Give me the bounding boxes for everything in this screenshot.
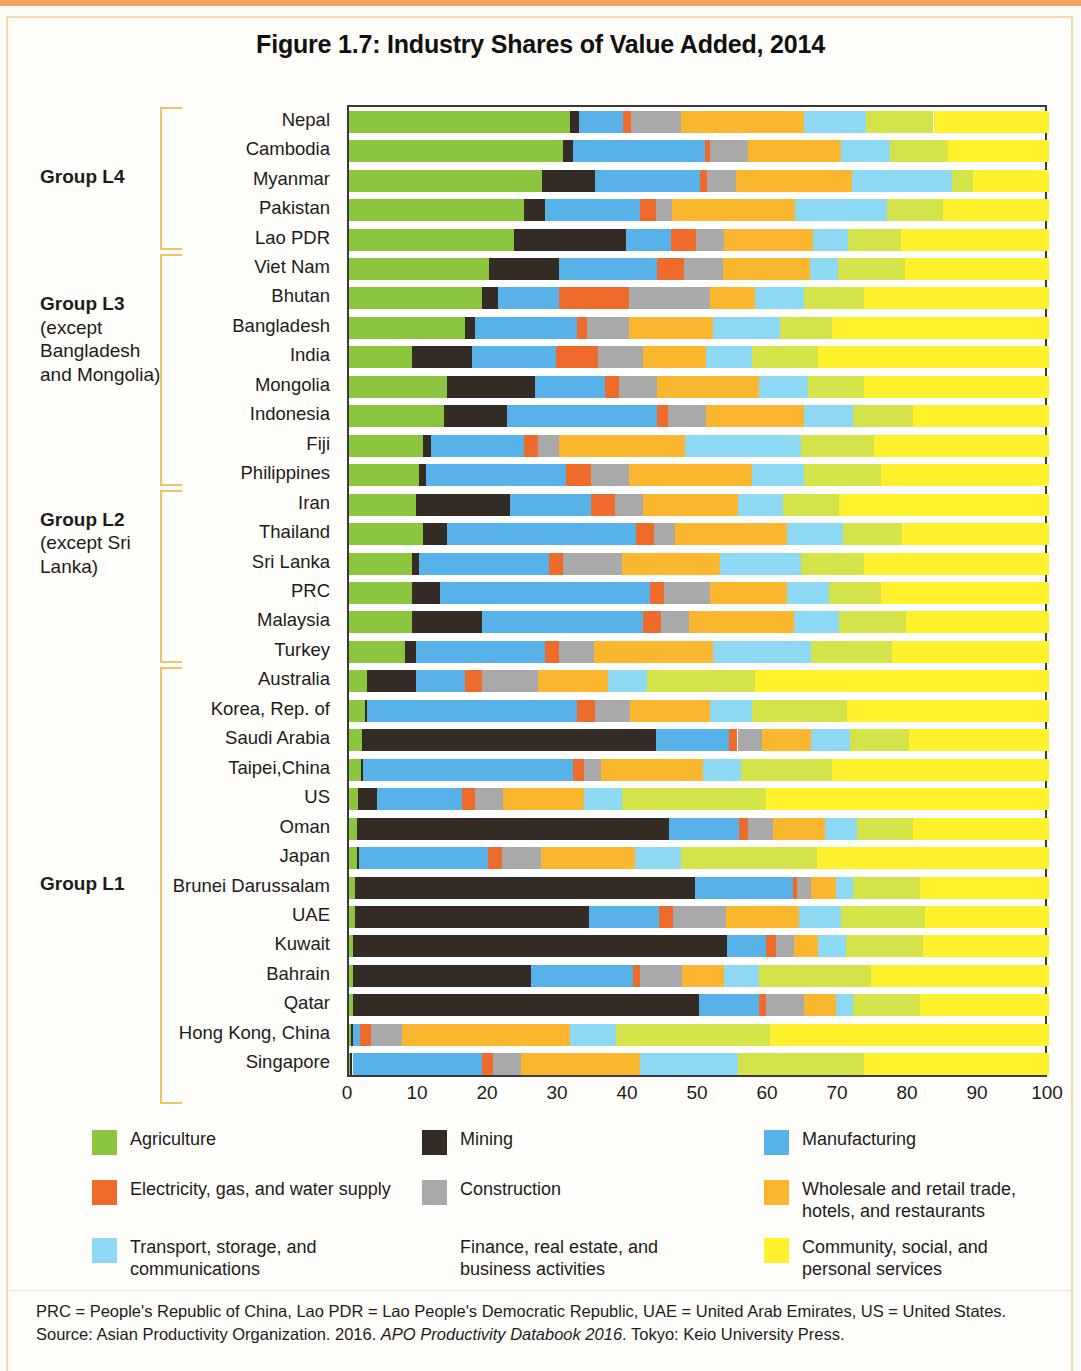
bar-segment-transport (703, 759, 742, 781)
bar-segment-mining (489, 258, 559, 280)
bar-segment-agriculture (349, 287, 482, 309)
bar-segment-wholesale (643, 346, 706, 368)
bar-segment-transport (787, 523, 843, 545)
table-row (349, 1024, 1045, 1046)
table-row (349, 965, 1045, 987)
group-label: Group L1 (40, 872, 165, 896)
x-axis-tick: 100 (1031, 1082, 1063, 1104)
bar-segment-electricity (462, 788, 475, 810)
bar-segment-electricity (465, 670, 483, 692)
bar-segment-wholesale (811, 877, 836, 899)
country-label: Turkey (274, 639, 330, 661)
bar-segment-agriculture (349, 229, 514, 251)
bar-segment-mining (405, 641, 416, 663)
bar-segment-manufacturing (695, 877, 793, 899)
bar-segment-agriculture (349, 582, 412, 604)
bar-segment-electricity (659, 906, 673, 928)
bar-segment-finance (752, 700, 847, 722)
bar-segment-transport (635, 847, 681, 869)
bar-segment-community (923, 935, 1049, 957)
table-row (349, 935, 1045, 957)
bar-segment-wholesale (689, 611, 794, 633)
bar-segment-agriculture (349, 376, 447, 398)
bar-segment-community (901, 229, 1049, 251)
bar-segment-construction (661, 611, 689, 633)
bar-segment-community (766, 788, 1050, 810)
bar-segment-finance (843, 523, 903, 545)
bar-segment-finance (846, 935, 923, 957)
table-row (349, 1053, 1045, 1075)
bar-segment-construction (696, 229, 724, 251)
bar-segment-community (881, 582, 1049, 604)
page-background: Figure 1.7: Industry Shares of Value Add… (0, 0, 1081, 1371)
legend-item: Construction (422, 1179, 561, 1205)
bar-segment-manufacturing (535, 376, 605, 398)
country-label: India (290, 344, 330, 366)
bar-segment-community (847, 700, 1049, 722)
table-row (349, 170, 1045, 192)
bar-segment-construction (563, 553, 623, 575)
bar-segment-construction (559, 641, 594, 663)
bar-segment-wholesale (710, 287, 756, 309)
bar-segment-manufacturing (595, 170, 700, 192)
bar-segment-manufacturing (727, 935, 766, 957)
country-label: Philippines (241, 462, 330, 484)
bar-segment-mining (357, 818, 669, 840)
bar-segment-finance (838, 258, 905, 280)
bar-segment-manufacturing (475, 317, 577, 339)
bar-segment-agriculture (349, 729, 362, 751)
x-axis-tick: 90 (966, 1082, 987, 1104)
bar-segment-transport (724, 965, 759, 987)
bar-segment-agriculture (349, 317, 465, 339)
country-label: US (304, 786, 330, 808)
bar-segment-wholesale (804, 994, 836, 1016)
table-row (349, 111, 1045, 133)
bar-segment-finance (783, 494, 839, 516)
group-label: Group L4 (40, 165, 165, 189)
bar-segment-community (881, 464, 1049, 486)
bar-segment-wholesale (682, 965, 724, 987)
bar-segment-construction (482, 670, 538, 692)
table-row (349, 346, 1045, 368)
table-row (349, 464, 1045, 486)
legend-label: Finance, real estate, and business activ… (460, 1237, 730, 1280)
bar-segment-wholesale (726, 906, 800, 928)
bar-segment-community (832, 317, 1049, 339)
bar-segment-community (817, 847, 1049, 869)
bar-segment-mining (419, 464, 426, 486)
bar-segment-mining (412, 611, 482, 633)
group-label-name: Group L1 (40, 872, 165, 896)
bar-segment-construction (640, 965, 682, 987)
x-axis-tick: 20 (476, 1082, 497, 1104)
bar-segment-community (906, 611, 1050, 633)
bar-segment-finance (866, 111, 933, 133)
bar-segment-electricity (577, 700, 595, 722)
x-axis-tick: 10 (406, 1082, 427, 1104)
bar-segment-construction (502, 847, 541, 869)
bar-segment-mining (444, 405, 507, 427)
bar-segment-manufacturing (416, 670, 465, 692)
bar-segment-community (934, 111, 1050, 133)
bar-segment-agriculture (349, 670, 367, 692)
bar-segment-electricity (623, 111, 631, 133)
bar-segment-wholesale (748, 140, 841, 162)
bar-segment-wholesale (402, 1024, 570, 1046)
bar-segment-mining (447, 376, 535, 398)
bar-segment-finance (853, 877, 920, 899)
bar-segment-construction (748, 818, 773, 840)
bar-segment-manufacturing (363, 759, 573, 781)
bar-segment-electricity (700, 170, 707, 192)
bar-segment-community (913, 405, 1050, 427)
bar-segment-community (755, 670, 1049, 692)
bar-segment-transport (713, 641, 811, 663)
table-row (349, 582, 1045, 604)
bar-segment-electricity (573, 759, 584, 781)
legend-item: Manufacturing (764, 1129, 916, 1155)
bar-segment-construction (631, 111, 681, 133)
bar-segment-finance (811, 641, 892, 663)
bar-segment-electricity (633, 965, 640, 987)
bar-segment-wholesale (657, 376, 759, 398)
bar-segment-transport (720, 553, 801, 575)
table-row (349, 788, 1045, 810)
legend-label: Mining (460, 1129, 513, 1151)
